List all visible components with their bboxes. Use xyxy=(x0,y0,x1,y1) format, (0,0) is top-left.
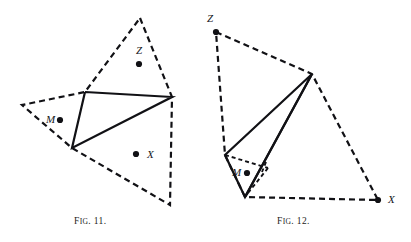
fig-11-caption-number: . 11. xyxy=(88,216,106,226)
point-label-z: Z xyxy=(136,44,143,56)
point-dot-z xyxy=(213,29,219,35)
figure-plate: ZMX ZMX FIG. 11. FIG. 12. xyxy=(0,0,411,242)
fig-12-solid-lines xyxy=(225,74,312,197)
fig-12-caption-number: . 12. xyxy=(291,216,309,226)
fig-11-dashed-outline xyxy=(22,18,172,205)
point-dot-m xyxy=(244,170,250,176)
fig-12-caption: FIG. 12. xyxy=(277,216,310,226)
fig-12-solid-path-1 xyxy=(245,74,312,197)
point-label-x: X xyxy=(146,148,155,160)
fig-11-solid-triangle xyxy=(72,92,172,148)
point-label-m: M xyxy=(45,113,56,125)
fig-11-point-dots xyxy=(57,61,142,157)
point-label-x: X xyxy=(387,193,396,205)
point-dot-x xyxy=(133,151,139,157)
point-dot-x xyxy=(375,197,381,203)
figure-11-group: ZMX xyxy=(22,18,172,205)
point-label-m: M xyxy=(231,166,242,178)
point-label-z: Z xyxy=(207,12,214,24)
fig-12-solid-path-0 xyxy=(225,74,312,197)
point-dot-z xyxy=(136,61,142,67)
geometry-figures-canvas: ZMX ZMX xyxy=(0,0,411,242)
point-dot-m xyxy=(57,117,63,123)
figure-12-group: ZMX xyxy=(207,12,396,205)
fig-11-caption: FIG. 11. xyxy=(74,216,106,226)
